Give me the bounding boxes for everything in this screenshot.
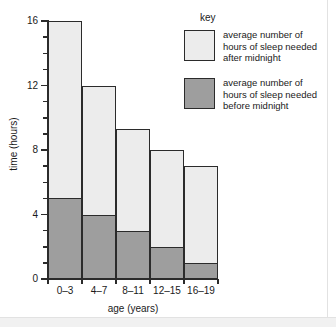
legend-label-after-midnight: average number of hours of sleep needed … [223,29,320,64]
legend: key average number of hours of sleep nee… [184,12,320,125]
bar-segment-before-midnight [82,215,116,280]
y-tick-4 [41,214,48,216]
bar-segment-after-midnight [184,166,218,264]
x-tick-3 [149,279,151,284]
y-tick-label-16: 16 [16,16,38,26]
x-tick-2 [115,279,117,284]
bar-segment-after-midnight [82,86,116,216]
bar-segment-after-midnight [48,21,82,199]
bar-segment-before-midnight [150,247,184,279]
y-tick-label-4: 4 [16,210,38,220]
x-category-label-5: 16–19 [179,285,223,297]
x-tick-5 [217,279,219,284]
y-tick-label-12: 12 [16,81,38,91]
legend-swatch-before-midnight [184,78,215,109]
x-axis-label: age (years) [48,303,218,315]
bar-segment-before-midnight [116,231,150,279]
legend-item-after-midnight: average number of hours of sleep needed … [184,29,320,67]
bar-segment-after-midnight [116,129,150,232]
legend-label-before-midnight: average number of hours of sleep needed … [223,77,320,112]
y-axis-label: time (hours) [8,106,20,182]
x-tick-0 [47,279,49,284]
legend-item-before-midnight: average number of hours of sleep needed … [184,77,320,115]
frame-right-edge [327,0,328,318]
x-tick-4 [183,279,185,284]
y-tick-8 [41,149,48,151]
chart-page: 0481216 time (hours) 0–34–78–1112–1516–1… [0,0,336,327]
bar-segment-before-midnight [184,263,218,279]
bar-segment-before-midnight [48,198,82,279]
frame-bottom-strip [0,318,336,327]
y-tick-label-0: 0 [16,274,38,284]
y-tick-12 [41,85,48,87]
x-tick-1 [81,279,83,284]
y-tick-16 [41,20,48,22]
bar-segment-after-midnight [150,150,184,248]
legend-title: key [200,12,320,24]
legend-swatch-after-midnight [184,30,215,61]
legend-entries: average number of hours of sleep needed … [184,29,320,115]
